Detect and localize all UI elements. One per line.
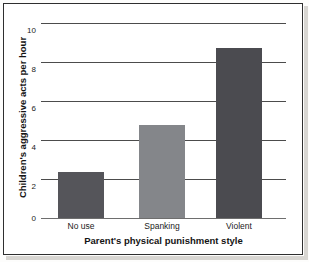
gridline-10 (41, 23, 286, 24)
y-axis-title: Children's aggressive acts per hour (17, 18, 28, 218)
xtick-label-violent: Violent (216, 221, 262, 231)
plot-area: 10 8 6 4 2 0 No use Spanking Violent Par… (0, 0, 309, 262)
xtick-label-spanking: Spanking (139, 221, 185, 231)
bar-spanking (139, 125, 185, 218)
axis-baseline (41, 218, 286, 219)
bar-no-use (58, 172, 104, 218)
chart-figure: 10 8 6 4 2 0 No use Spanking Violent Par… (0, 0, 309, 262)
x-axis-title: Parent's physical punishment style (41, 235, 286, 246)
bar-violent (216, 48, 262, 218)
xtick-label-no-use: No use (58, 221, 104, 231)
